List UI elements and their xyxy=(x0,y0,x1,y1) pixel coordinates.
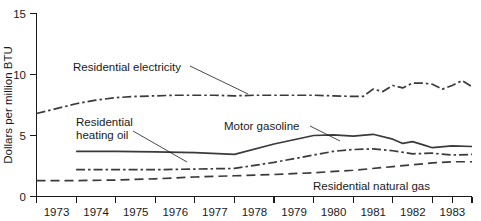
label-residential-electricity: Residential electricity xyxy=(73,61,181,73)
label-motor-gasoline: Motor gasoline xyxy=(224,120,299,132)
y-tick-label-10: 10 xyxy=(13,69,26,81)
x-tick-label-1981: 1981 xyxy=(360,206,386,218)
x-tick-label-1974: 1974 xyxy=(83,206,109,218)
y-tick-label-15: 15 xyxy=(13,8,26,20)
label-residential-heating-oil-line2: heating oil xyxy=(76,129,128,141)
y-tick-label-0: 0 xyxy=(20,191,26,203)
x-tick-label-1975: 1975 xyxy=(123,206,149,218)
x-tick-group: 1973197419751976197719781979198019811982… xyxy=(37,197,473,218)
x-tick-label-1980: 1980 xyxy=(321,206,347,218)
leader-residential-heating-oil xyxy=(133,131,187,162)
x-tick-label-1977: 1977 xyxy=(202,206,228,218)
leader-residential-electricity xyxy=(190,66,248,94)
series-line-residential-electricity xyxy=(37,81,473,114)
energy-price-line-chart: 15 10 5 0 Dollars per million BTU 197319… xyxy=(0,0,481,221)
x-tick-label-1982: 1982 xyxy=(400,206,426,218)
leader-motor-gasoline xyxy=(310,126,340,141)
chart-canvas: 15 10 5 0 Dollars per million BTU 197319… xyxy=(0,0,481,221)
x-tick-label-1979: 1979 xyxy=(281,206,307,218)
y-tick-group xyxy=(30,14,37,197)
label-residential-heating-oil-line1: Residential xyxy=(76,116,133,128)
x-tick-label-1983: 1983 xyxy=(440,206,466,218)
series-line-motor-gasoline xyxy=(76,134,472,154)
y-axis-title: Dollars per million BTU xyxy=(2,46,14,164)
leader-line-group xyxy=(133,66,340,162)
x-tick-label-1978: 1978 xyxy=(242,206,268,218)
x-tick-label-1976: 1976 xyxy=(162,206,188,218)
x-tick-label-1973: 1973 xyxy=(44,206,70,218)
label-residential-natural-gas: Residential natural gas xyxy=(313,180,430,192)
y-tick-label-5: 5 xyxy=(20,130,26,142)
